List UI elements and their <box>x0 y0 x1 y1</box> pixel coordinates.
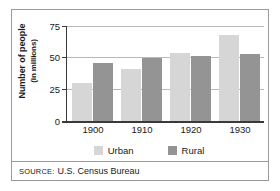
x-axis-tick-labels: 1900 1910 1920 1930 <box>67 124 264 138</box>
y-tick-label-0: 0 <box>36 117 60 126</box>
source-text: U.S. Census Bureau <box>58 166 140 176</box>
bar-group-1930 <box>218 26 262 121</box>
x-axis-line <box>62 121 264 123</box>
legend-swatch-rural-icon <box>168 146 177 155</box>
bar-group-1910 <box>120 26 164 121</box>
bar-rural-1930 <box>240 54 260 121</box>
x-tick-label-1920: 1920 <box>169 124 213 135</box>
plot-area: Number of people (in millions) 75 50 25 … <box>12 10 268 151</box>
bar-rural-1900 <box>93 63 113 121</box>
chart-legend: Urban Rural <box>12 140 268 160</box>
x-tick-label-1900: 1900 <box>71 124 115 135</box>
chart-figure: Number of people (in millions) 75 50 25 … <box>11 9 269 181</box>
source-row: SOURCE: U.S. Census Bureau <box>12 162 268 180</box>
bar-urban-1910 <box>121 69 141 121</box>
x-tick-label-1910: 1910 <box>120 124 164 135</box>
source-label: SOURCE: <box>19 167 55 176</box>
bar-urban-1900 <box>72 83 92 121</box>
legend-item-urban: Urban <box>94 145 134 156</box>
bar-group-1900 <box>71 26 115 121</box>
legend-swatch-urban-icon <box>94 146 103 155</box>
y-tick-label-25: 25 <box>36 85 60 94</box>
legend-item-rural: Rural <box>168 145 205 156</box>
legend-label-rural: Rural <box>182 145 205 156</box>
x-tick-label-1930: 1930 <box>218 124 262 135</box>
y-tick-label-50: 50 <box>36 53 60 62</box>
bar-group-1920 <box>169 26 213 121</box>
legend-label-urban: Urban <box>108 145 134 156</box>
y-tick-label-75: 75 <box>36 22 60 31</box>
bar-urban-1930 <box>219 35 239 121</box>
y-axis-tick-labels: 75 50 25 0 <box>34 10 60 151</box>
bar-urban-1920 <box>170 53 190 121</box>
y-axis-title-main: Number of people <box>17 24 27 99</box>
bars-container <box>67 26 264 121</box>
bar-rural-1910 <box>142 58 162 121</box>
bar-rural-1920 <box>191 56 211 121</box>
